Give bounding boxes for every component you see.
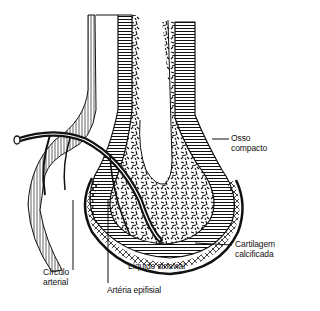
label-osso-compacto: Osso compacto [231, 134, 267, 153]
label-cartilagem-calcificada: Cartilagem calcificada [235, 240, 275, 259]
label-circulo-arterial: Círculo arterial [43, 268, 69, 287]
label-arteria-epifisial: Artéria epifisial [107, 286, 161, 296]
label-line: arterial [43, 278, 69, 288]
label-line: calcificada [235, 250, 275, 260]
label-line: compacto [231, 144, 267, 154]
label-liquido-sinovial: Líquido sinovial [128, 262, 185, 272]
